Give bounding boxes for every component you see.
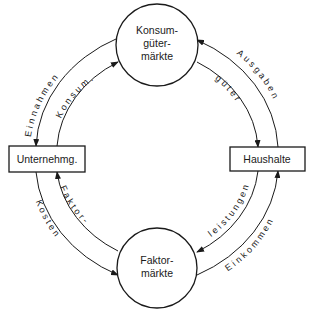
node-line-1: Konsum- xyxy=(136,24,179,36)
label-gueter: güter xyxy=(214,73,244,105)
label-einkommen: Einkommen xyxy=(223,215,276,273)
label-ausgaben: Ausgaben xyxy=(235,48,282,102)
label-konsum: Konsum. xyxy=(54,72,97,120)
node-line-2: güter- xyxy=(143,37,171,49)
node-unternehmungen: Unternehmg. xyxy=(9,146,85,172)
node-line-2: märkte xyxy=(141,267,173,279)
node-konsumguetermaerkte: Konsum- güter- märkte xyxy=(116,4,198,86)
node-faktormaerkte: Faktor- märkte xyxy=(117,228,197,308)
node-label: Haushalte xyxy=(243,153,290,165)
node-line-1: Faktor- xyxy=(140,254,174,266)
node-line-3: märkte xyxy=(141,50,173,62)
label-kosten: Kosten xyxy=(34,198,64,240)
diagram-canvas: Einnahmen Konsum. Ausgaben güter leistun… xyxy=(0,0,313,313)
circular-flow-diagram: Einnahmen Konsum. Ausgaben güter leistun… xyxy=(0,0,313,313)
label-faktor: Faktor- xyxy=(58,184,92,227)
node-label: Unternehmg. xyxy=(17,153,78,165)
node-haushalte: Haushalte xyxy=(230,147,305,171)
flow-gueter-arrow xyxy=(197,62,258,147)
label-einnahmen: Einnahmen xyxy=(23,70,62,137)
